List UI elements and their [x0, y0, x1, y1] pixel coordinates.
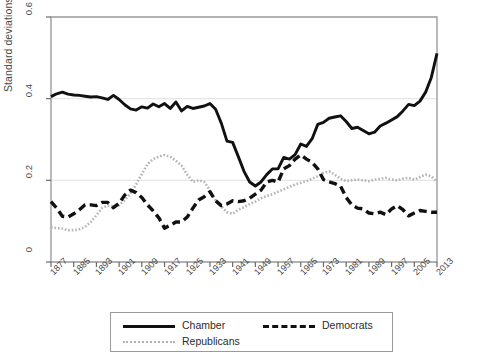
y-tick-label: 0.2 — [14, 174, 44, 186]
legend-label-democrats: Democrats — [322, 319, 373, 331]
legend-item-republicans: Republicans — [123, 335, 240, 347]
series-line-republicans — [51, 155, 437, 230]
series-line-democrats — [51, 155, 437, 228]
legend-label-republicans: Republicans — [182, 335, 240, 347]
legend-label-chamber: Chamber — [182, 319, 225, 331]
legend-swatch-solid-icon — [123, 320, 175, 330]
legend-item-chamber: Chamber — [123, 319, 225, 331]
y-tick-label: 0 — [14, 256, 44, 268]
legend-item-democrats: Democrats — [263, 319, 373, 331]
plot-area — [0, 0, 480, 360]
y-tick-label: 0.6 — [14, 11, 44, 23]
y-tick-label: 0.4 — [14, 93, 44, 105]
chart-figure: Standard deviations 00.20.40.6 187718851… — [0, 0, 480, 360]
series-line-chamber — [51, 53, 437, 186]
legend-swatch-dotted-icon — [123, 336, 175, 346]
legend-swatch-dashed-icon — [263, 320, 315, 330]
chart-legend: Chamber Democrats Republicans — [110, 312, 393, 352]
